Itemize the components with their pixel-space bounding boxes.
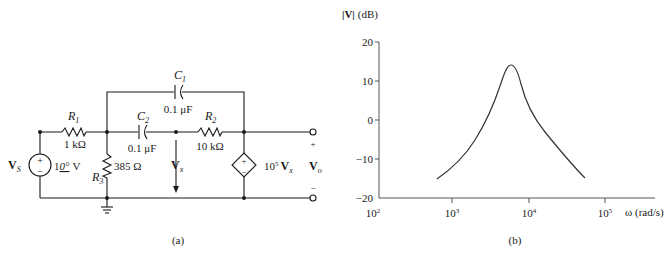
x-axis-title: ω (rad/s) [625,206,664,219]
circuit-diagram: C1 0.1 μF R1 1 kΩ C2 0.1 μF R2 10 kΩ + −… [8,68,322,247]
resistor-r2 [198,128,222,136]
svg-text:10: 10 [362,75,374,87]
dependent-source-gain: 105Vx [264,159,293,175]
magnitude-curve [437,65,585,179]
vs-value: 10°V [54,160,80,172]
caption-a: (a) [172,234,185,247]
node [38,130,42,134]
r1-value: 1 kΩ [64,138,86,150]
r3-label: R3 [91,170,103,186]
output-terminal-minus [310,195,316,201]
svg-text:104: 104 [522,207,537,219]
y-ticks: 20 10 0 −10 −20 [356,36,379,204]
dependent-source-diamond: + − [232,153,256,177]
resistor-r1 [62,128,86,136]
r1-label: R1 [67,109,79,125]
capacitor-c1 [175,85,183,99]
node [105,196,109,200]
output-terminal-plus [310,129,316,135]
node [174,130,178,134]
resistor-r3 [103,154,111,178]
r3-value: 385 Ω [114,160,141,172]
svg-text:+: + [37,155,43,166]
c1-value: 0.1 μF [164,103,193,115]
c2-value: 0.1 μF [128,142,157,154]
voltage-source-vs: + − [29,154,51,177]
vx-label: Vx [171,158,184,174]
svg-text:102: 102 [366,207,381,219]
vo-label: Vo [309,159,322,175]
ground-icon [101,198,113,213]
node [242,196,246,200]
svg-text:−: − [37,166,43,177]
c2-label: C2 [137,109,149,125]
node [242,130,246,134]
svg-text:105: 105 [598,207,613,219]
y-axis-title: |V|(dB) [342,8,378,21]
output-plus-sign: + [310,139,315,149]
svg-text:+: + [241,156,246,166]
x-ticks: 102 103 104 105 [366,198,613,219]
c1-label: C1 [174,68,186,84]
vs-label: VS [8,158,21,174]
capacitor-c2 [139,125,147,139]
svg-text:103: 103 [445,207,460,219]
svg-text:0: 0 [368,114,374,126]
r2-label: R2 [204,109,216,125]
svg-text:−20: −20 [356,192,374,204]
svg-text:20: 20 [362,36,374,48]
r2-value: 10 kΩ [196,140,223,152]
output-minus-sign: − [310,183,315,193]
bode-plot: |V|(dB) 20 10 0 −10 −20 102 103 104 105 … [342,8,664,247]
svg-text:−10: −10 [356,153,374,165]
caption-b: (b) [509,234,522,247]
node [105,130,109,134]
svg-text:−: − [241,167,246,177]
